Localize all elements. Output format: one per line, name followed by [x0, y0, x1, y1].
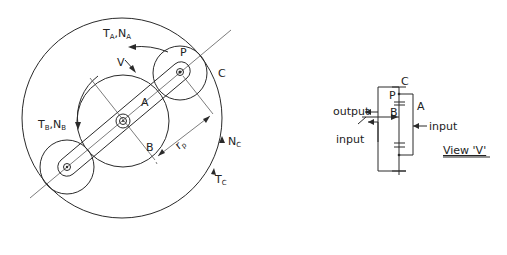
tb-nb-arc: [77, 76, 98, 125]
view-v-schematic: C P A B output input input View 'V': [333, 75, 490, 175]
label-v: V: [117, 56, 125, 69]
view-v-label-a: A: [417, 100, 425, 113]
view-v-label-input-left: input: [336, 133, 365, 146]
view-v-label-b: B: [390, 106, 398, 119]
label-a: A: [141, 96, 149, 109]
epicyclic-gear-diagram: TA,NA V P C A B TB,NB rp NC TC: [0, 0, 507, 255]
label-b: B: [146, 141, 154, 154]
main-view: TA,NA V P C A B TB,NB rp NC TC: [22, 18, 241, 218]
label-p: P: [180, 46, 187, 59]
ta-na-arc: [132, 47, 168, 52]
ta-na-arrowhead: [128, 44, 136, 50]
label-nc: NC: [228, 135, 241, 149]
view-v-label-input-right: input: [429, 120, 458, 133]
label-tc: TC: [214, 173, 227, 187]
view-v-label-output: output: [333, 105, 370, 118]
rp-dimension: [156, 76, 213, 164]
planet-pivot-p: [177, 69, 184, 76]
label-tb-nb: TB,NB: [37, 118, 66, 132]
view-v-label-p: P: [389, 89, 396, 102]
label-ta-na: TA,NA: [102, 27, 131, 41]
planet-pivot-lower: [64, 164, 71, 171]
label-c: C: [218, 67, 226, 80]
view-v-label-c: C: [401, 75, 409, 88]
view-v-caption: View 'V': [443, 144, 486, 157]
tb-nb-arrowhead: [75, 122, 81, 130]
